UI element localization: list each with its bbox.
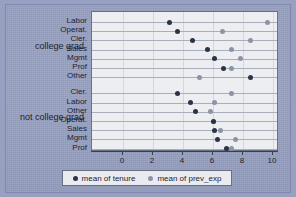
- x-axis-tick: [212, 151, 213, 155]
- gridline: [92, 93, 277, 94]
- data-point-prev-exp: [248, 38, 253, 43]
- data-point-prev-exp: [233, 137, 238, 142]
- x-axis-tick-label: 0: [120, 156, 124, 165]
- x-axis-tick: [242, 151, 243, 155]
- y-axis-label: Operat.: [27, 116, 87, 124]
- data-point-tenure: [190, 38, 195, 43]
- y-axis-label: Mgmt: [27, 54, 87, 62]
- gridline: [92, 31, 277, 32]
- gridline: [92, 139, 277, 140]
- x-axis-line: [91, 151, 278, 152]
- data-point-tenure: [211, 119, 216, 124]
- data-point-prev-exp: [265, 20, 270, 25]
- y-axis-label: Prof: [27, 63, 87, 71]
- y-axis-label: Mgmt: [27, 134, 87, 142]
- data-point-tenure: [188, 100, 193, 105]
- plot-area: [91, 11, 278, 151]
- gridline: [92, 22, 277, 23]
- data-point-prev-exp: [208, 109, 213, 114]
- data-point-tenure: [167, 20, 172, 25]
- gridline: [92, 59, 277, 60]
- y-axis-label: Labor: [27, 17, 87, 25]
- gridline: [92, 112, 277, 113]
- y-axis-label: Other: [27, 72, 87, 80]
- legend-dot-icon-prev-exp: [148, 176, 153, 181]
- data-point-prev-exp: [229, 91, 234, 96]
- y-axis-label: Labor: [27, 98, 87, 106]
- gridline: [92, 103, 277, 104]
- x-axis-tick: [182, 151, 183, 155]
- data-point-tenure: [205, 47, 210, 52]
- data-point-tenure: [248, 75, 253, 80]
- data-point-tenure: [175, 29, 180, 34]
- y-axis-label: Sales: [27, 45, 87, 53]
- y-axis-label: Other: [27, 107, 87, 115]
- x-axis-tick-label: 2: [150, 156, 154, 165]
- data-point-prev-exp: [197, 75, 202, 80]
- x-axis-tick: [272, 151, 273, 155]
- y-axis-label: Cler.: [27, 88, 87, 96]
- data-point-tenure: [212, 128, 217, 133]
- data-point-prev-exp: [212, 100, 217, 105]
- data-point-prev-exp: [220, 29, 225, 34]
- x-axis-tick: [122, 151, 123, 155]
- y-axis-label: Prof: [27, 144, 87, 152]
- data-point-prev-exp: [218, 128, 223, 133]
- legend-item-tenure: mean of tenure: [73, 174, 136, 183]
- x-axis-tick-label: 8: [240, 156, 244, 165]
- x-axis-tick-label: 10: [268, 156, 277, 165]
- y-axis-label: Sales: [27, 125, 87, 133]
- legend-item-prev-exp: mean of prev_exp: [148, 174, 221, 183]
- chart-legend: mean of tenure mean of prev_exp: [62, 170, 232, 186]
- x-axis-tick-label: 4: [180, 156, 184, 165]
- data-point-prev-exp: [229, 66, 234, 71]
- gridline: [92, 130, 277, 131]
- data-point-tenure: [221, 66, 226, 71]
- gridline: [92, 149, 277, 150]
- x-axis-tick-label: 6: [210, 156, 214, 165]
- y-axis-label: Operat.: [27, 26, 87, 34]
- data-point-tenure: [193, 109, 198, 114]
- legend-label-prev-exp: mean of prev_exp: [157, 174, 221, 183]
- data-point-prev-exp: [238, 56, 243, 61]
- data-point-prev-exp: [229, 47, 234, 52]
- data-point-tenure: [175, 91, 180, 96]
- data-point-tenure: [212, 56, 217, 61]
- legend-dot-icon-tenure: [73, 176, 78, 181]
- gridline: [92, 121, 277, 122]
- gridline: [92, 68, 277, 69]
- x-axis-tick: [152, 151, 153, 155]
- chart-figure: college grad not college grad LaborOpera…: [0, 0, 296, 197]
- gridline: [92, 50, 277, 51]
- y-axis-label: Cler.: [27, 35, 87, 43]
- data-point-tenure: [215, 137, 220, 142]
- y-axis-labels: LaborOperat.Cler.SalesMgmtProfOtherCler.…: [27, 0, 87, 197]
- legend-label-tenure: mean of tenure: [82, 174, 136, 183]
